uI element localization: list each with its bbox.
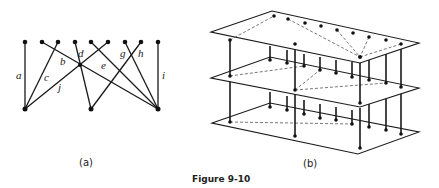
edge-label: b: [60, 55, 66, 67]
edge-j: [25, 42, 108, 109]
node: [73, 40, 78, 45]
node: [40, 40, 45, 45]
junction-node: [78, 63, 82, 67]
node: [23, 40, 28, 45]
panel-b-board: [211, 11, 419, 154]
node: [156, 40, 161, 45]
node: [106, 40, 111, 45]
node: [139, 40, 144, 45]
edge-label: h: [138, 47, 144, 59]
graph-bottom-nodes: [23, 107, 161, 112]
node: [56, 40, 61, 45]
node: [23, 107, 28, 112]
edge-c: [25, 42, 58, 109]
node: [89, 107, 94, 112]
edge-label: i: [162, 69, 165, 81]
plate-bottom: [212, 103, 419, 154]
node: [156, 107, 161, 112]
graph-top-nodes: [23, 40, 161, 45]
figure-caption: Figure 9-10: [192, 174, 250, 184]
plate-middle: [211, 57, 419, 107]
panel-b-label: (b): [303, 158, 317, 169]
edge-label: d: [78, 47, 84, 59]
edge-label: e: [101, 59, 106, 71]
node: [123, 40, 128, 45]
edge-label: a: [16, 69, 22, 81]
panel-a-graph: a b c d e j g h i: [16, 40, 165, 112]
plate-top: [211, 11, 419, 63]
node: [89, 40, 94, 45]
panel-a-label: (a): [79, 157, 93, 168]
edge-label: g: [120, 47, 126, 59]
edge-label: c: [44, 71, 49, 83]
edge-h: [91, 42, 141, 109]
figure-canvas: a b c d e j g h i: [0, 0, 439, 188]
